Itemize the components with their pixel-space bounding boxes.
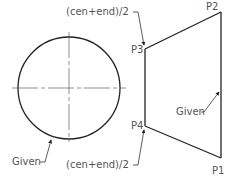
label-given-edge: Given [176,106,205,117]
trapezoid-shape [145,12,221,158]
given-circle-group [12,32,126,142]
leader-bottom-midpoint [133,130,144,165]
point-label-p1: P1 [212,165,224,176]
label-given-circle: Given [12,156,41,167]
leader-given-circle [40,140,51,162]
point-label-p3: P3 [131,44,143,55]
point-label-p4: P4 [131,120,143,131]
annotation-top-midpoint: (cen+end)/2 [66,6,129,17]
edge-p3-p2 [145,12,221,49]
cad-diagram: P1 P2 P3 P4 (cen+end)/2 (cen+end)/2 Give… [0,0,234,179]
annotation-bottom-midpoint: (cen+end)/2 [66,159,129,170]
point-label-p2: P2 [206,1,218,12]
leader-top-midpoint [133,12,144,45]
edge-p1-p4 [145,126,221,158]
